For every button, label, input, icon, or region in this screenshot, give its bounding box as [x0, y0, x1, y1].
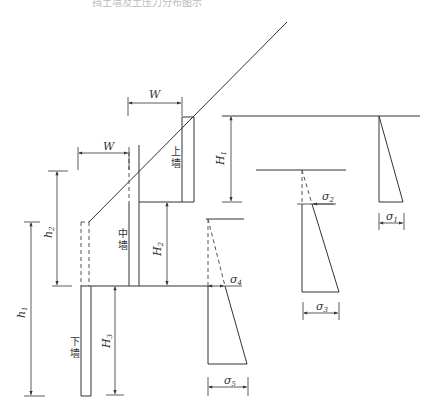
lower-wall-label: 下墙 [70, 336, 80, 359]
middle-wall-label: 中墙 [118, 227, 128, 251]
caption-text: 挡土墙及土压力分布图示 [92, 0, 202, 8]
h1-label: h1 [15, 306, 29, 318]
dim-h3-lower: H3 [100, 287, 124, 395]
h2-label: h2 [42, 226, 56, 238]
sigma4-label: σ4 [230, 273, 242, 287]
H3-label: H3 [100, 333, 114, 349]
upper-wall-label: 上墙 [171, 146, 181, 169]
lower-wall: 下墙 [70, 222, 210, 396]
sigma5-label: σ5 [224, 374, 237, 388]
dim-w-mid: W [78, 140, 129, 170]
H1-label: H1 [214, 151, 228, 166]
dim-h1-upper: H1 [214, 116, 420, 202]
stress-diagram-1: σ1 [379, 116, 404, 230]
w-top-label: W [149, 88, 162, 101]
stress-diagram-2-3: σ2 σ3 [256, 170, 346, 320]
slope-line [89, 22, 287, 222]
upper-wall: 上墙 [139, 117, 194, 202]
retaining-wall-diagram: 挡土墙及土压力分布图示 上墙 中墙 下墙 W W [0, 0, 441, 414]
stress-diagram-4-5: σ4 σ5 [206, 219, 248, 396]
dim-h2-middle: H2 [151, 203, 167, 285]
dim-h1-small: h1 [15, 222, 45, 396]
dim-h2-small: h2 [42, 171, 72, 286]
middle-wall: 中墙 [118, 145, 139, 286]
sigma1-label: σ1 [386, 210, 398, 224]
sigma2-label: σ2 [322, 190, 335, 204]
dim-w-top: W [128, 88, 182, 116]
w-mid-label: W [103, 140, 116, 153]
H2-label: H2 [151, 241, 165, 257]
sigma3-label: σ3 [316, 300, 329, 314]
